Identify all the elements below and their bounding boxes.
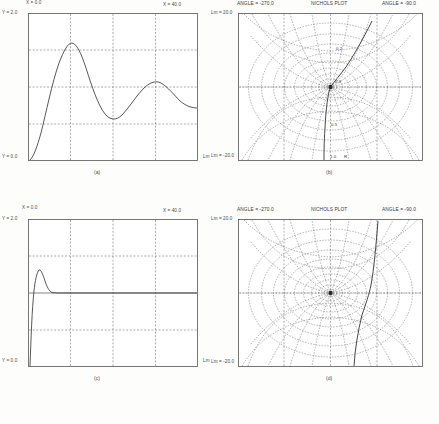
panel-b-contour-label-4: R [344, 154, 347, 159]
panel-d-lm-bottom-label: Lm = -20.0 [211, 360, 234, 365]
panel-c-right-edge-label: Lm [203, 359, 210, 364]
panel-d-angle-left-label: ANGLE = -270.0 [237, 208, 274, 213]
panel-c-caption: (c) [94, 376, 100, 381]
panel-b-angle-left-label: ANGLE = -270.0 [237, 2, 274, 7]
figure-control-system-plots: X = 0.0 X = 40.0 Y = 2.0 Y = 0.0 Lm [0, 0, 439, 424]
panel-b-contour-label-3: 1.0 [330, 154, 337, 159]
panel-d-svg [238, 219, 423, 367]
panel-b-title-label: NICHOLS PLOT [311, 2, 347, 7]
panel-c-plot-area [28, 219, 198, 367]
panel-a-y-max-label: Y = 2.0 [2, 11, 17, 16]
panel-b-lm-bottom-label: Lm = -20.0 [211, 154, 234, 159]
panel-d-caption: (d) [326, 376, 332, 381]
panel-c-y-min-label: Y = 0.0 [2, 359, 17, 364]
panel-b-contour-label-0: 0.2 [336, 46, 343, 51]
panel-b: ANGLE = -270.0 NICHOLS PLOT ANGLE = -90.… [210, 0, 439, 185]
panel-c-y-max-label: Y = 2.0 [2, 217, 17, 222]
panel-a-plot-area [28, 13, 198, 161]
panel-b-lm-top-label: Lm = 20.0 [211, 11, 232, 16]
panel-a-caption: (a) [94, 170, 100, 175]
panel-a-y-min-label: Y = 0.0 [2, 155, 17, 160]
panel-d: ANGLE = -270.0 NICHOLS PLOT ANGLE = -90.… [210, 195, 439, 424]
panel-a-right-edge-label: Lm [203, 155, 210, 160]
panel-b-angle-right-label: ANGLE = -90.0 [382, 2, 416, 7]
panel-d-title-label: NICHOLS PLOT [311, 208, 347, 213]
panel-a: X = 0.0 X = 40.0 Y = 2.0 Y = 0.0 Lm [0, 0, 210, 185]
panel-d-lm-top-label: Lm = 20.0 [211, 217, 232, 222]
panel-a-svg [28, 13, 198, 161]
panel-b-svg: 0.2 0.3 0.5 1.0 R [238, 13, 423, 161]
panel-b-plot-area: 0.2 0.3 0.5 1.0 R [238, 13, 423, 161]
panel-a-x-min-label: X = 0.0 [26, 1, 41, 6]
panel-b-contour-label-2: 0.5 [331, 122, 338, 127]
panel-c: X = 0.0 X = 40.0 Y = 2.0 Y = 0.0 Lm [0, 195, 210, 424]
panel-c-x-min-label: X = 0.0 [22, 206, 37, 211]
panel-b-caption: (b) [326, 170, 332, 175]
panel-c-x-max-label: X = 40.0 [163, 209, 181, 214]
panel-d-critical-point [328, 291, 332, 295]
panel-d-angle-right-label: ANGLE = -90.0 [382, 208, 416, 213]
panel-d-plot-area [238, 219, 423, 367]
panel-c-svg [28, 219, 198, 367]
panel-a-x-max-label: X = 40.0 [163, 3, 181, 8]
